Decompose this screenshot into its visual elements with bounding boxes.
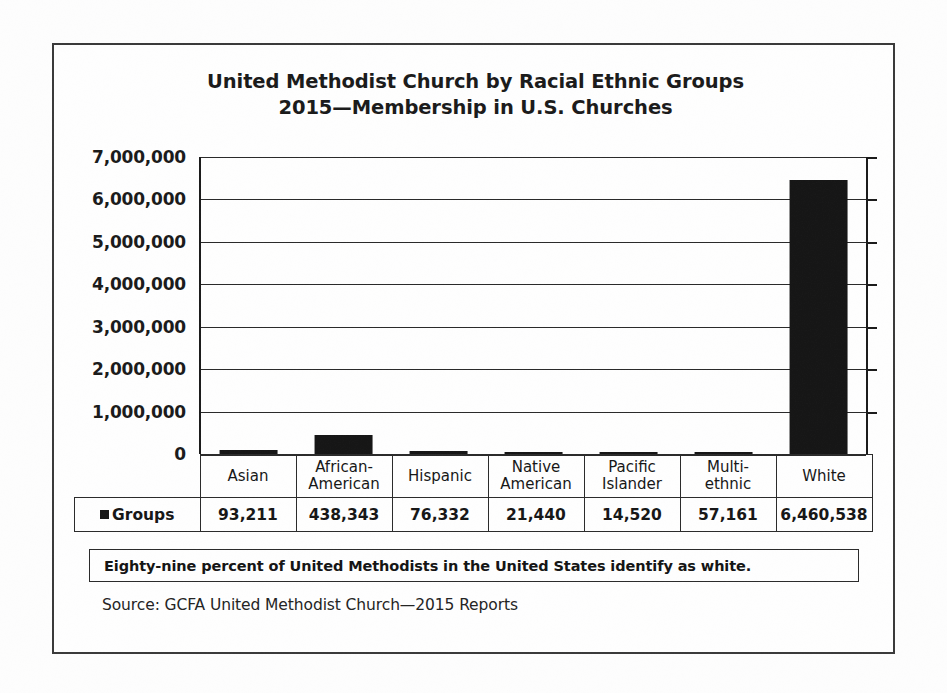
table-cell-category: White — [776, 455, 872, 498]
y-axis-tick-label: 6,000,000 — [60, 189, 186, 209]
bar-cell — [581, 157, 676, 454]
y-axis-right-tick — [866, 157, 877, 159]
table-cell-value: 21,440 — [488, 498, 584, 532]
category-label-line: American — [489, 476, 584, 493]
table-cell-category: Asian — [200, 455, 296, 498]
plot-area — [199, 157, 868, 454]
bar-cell — [771, 157, 866, 454]
data-table: AsianAfrican-AmericanHispanicNativeAmeri… — [74, 454, 873, 532]
y-axis-right-tick — [866, 284, 877, 286]
legend-square-icon — [100, 510, 109, 519]
bar-white — [789, 180, 848, 454]
table-cell-value: 76,332 — [392, 498, 488, 532]
category-label-line: Multi- — [681, 459, 776, 476]
table-cell-value: 6,460,538 — [776, 498, 872, 532]
legend-label: Groups — [112, 506, 174, 524]
table-cell-category: Multi-ethnic — [680, 455, 776, 498]
category-label-line: White — [777, 468, 872, 485]
bar-cell — [486, 157, 581, 454]
y-axis-tick-label: 7,000,000 — [60, 147, 186, 167]
y-axis-tick-label: 5,000,000 — [60, 232, 186, 252]
y-axis-right-tick — [866, 242, 877, 244]
table-cell-category: NativeAmerican — [488, 455, 584, 498]
bar-cell — [296, 157, 391, 454]
annotation-text: Eighty-nine percent of United Methodists… — [90, 558, 751, 574]
legend-groups: Groups — [75, 498, 201, 532]
category-label-line: Islander — [585, 476, 680, 493]
category-label-line: Pacific — [585, 459, 680, 476]
category-label-line: Native — [489, 459, 584, 476]
bar-cell — [391, 157, 486, 454]
figure-frame: United Methodist Church by Racial Ethnic… — [52, 43, 895, 654]
category-label-line: Hispanic — [393, 468, 488, 485]
table-cell-value: 438,343 — [296, 498, 392, 532]
bar-cell — [201, 157, 296, 454]
annotation-box: Eighty-nine percent of United Methodists… — [89, 549, 859, 582]
bar-african-american — [314, 435, 373, 454]
y-axis-tick-label: 2,000,000 — [60, 359, 186, 379]
category-label-line: ethnic — [681, 476, 776, 493]
category-label-line: Asian — [201, 468, 296, 485]
y-axis-right-tick — [866, 369, 877, 371]
y-axis-right-tick — [866, 327, 877, 329]
table-cell-category: Hispanic — [392, 455, 488, 498]
table-cell-category: PacificIslander — [584, 455, 680, 498]
bars-layer — [201, 157, 866, 454]
category-label-line: American — [297, 476, 392, 493]
table-cell-category: African-American — [296, 455, 392, 498]
bar-cell — [676, 157, 771, 454]
y-axis-right-tick — [866, 412, 877, 414]
category-label-line: African- — [297, 459, 392, 476]
y-axis-tick-label: 1,000,000 — [60, 402, 186, 422]
source-text: Source: GCFA United Methodist Church—201… — [102, 596, 518, 614]
table-row-values: Groups 93,211438,34376,33221,44014,52057… — [75, 498, 873, 532]
table-corner-blank — [75, 455, 201, 498]
y-axis-right-tick — [866, 199, 877, 201]
table-cell-value: 57,161 — [680, 498, 776, 532]
table-row-categories: AsianAfrican-AmericanHispanicNativeAmeri… — [75, 455, 873, 498]
y-axis-tick-label: 3,000,000 — [60, 317, 186, 337]
y-axis-tick-label: 4,000,000 — [60, 274, 186, 294]
table-cell-value: 93,211 — [200, 498, 296, 532]
plot-block: 7,000,0006,000,0005,000,0004,000,0003,00… — [54, 45, 897, 656]
table-cell-value: 14,520 — [584, 498, 680, 532]
